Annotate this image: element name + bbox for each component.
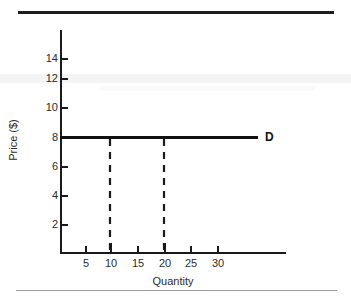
dropline-group <box>0 0 351 307</box>
demand-curve-line <box>60 136 258 139</box>
demand-curve-label: D <box>265 131 274 143</box>
y-axis-title: Price ($) <box>7 105 19 175</box>
plot-area: 14 12 10 8 6 4 2 5 10 15 20 25 30 <box>0 0 351 307</box>
x-axis-title: Quantity <box>60 275 286 287</box>
chart-figure: 14 12 10 8 6 4 2 5 10 15 20 25 30 <box>0 0 351 307</box>
